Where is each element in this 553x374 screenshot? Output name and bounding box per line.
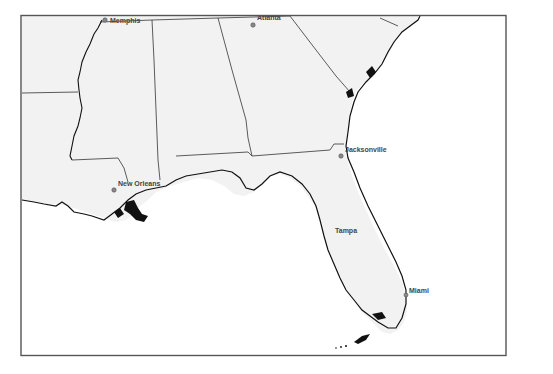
florida-keys [335, 345, 347, 349]
city-label-miami: Miami [409, 287, 429, 294]
city-label-tampa: Tampa [335, 227, 357, 235]
city-dot-icon [404, 293, 408, 297]
city-tampa[interactable]: Tampa [335, 227, 357, 235]
city-label-new-orleans: New Orleans [118, 180, 161, 187]
city-label-jacksonville: Jacksonville [345, 146, 387, 153]
city-dot-icon [251, 23, 255, 27]
city-dot-icon [112, 188, 116, 192]
city-dot-icon [339, 154, 343, 158]
map-canvas: Memphis Atlanta Jacksonville New Orleans… [0, 0, 553, 374]
city-miami[interactable]: Miami [404, 287, 429, 297]
city-dot-icon [103, 18, 107, 22]
city-label-memphis: Memphis [110, 17, 140, 25]
